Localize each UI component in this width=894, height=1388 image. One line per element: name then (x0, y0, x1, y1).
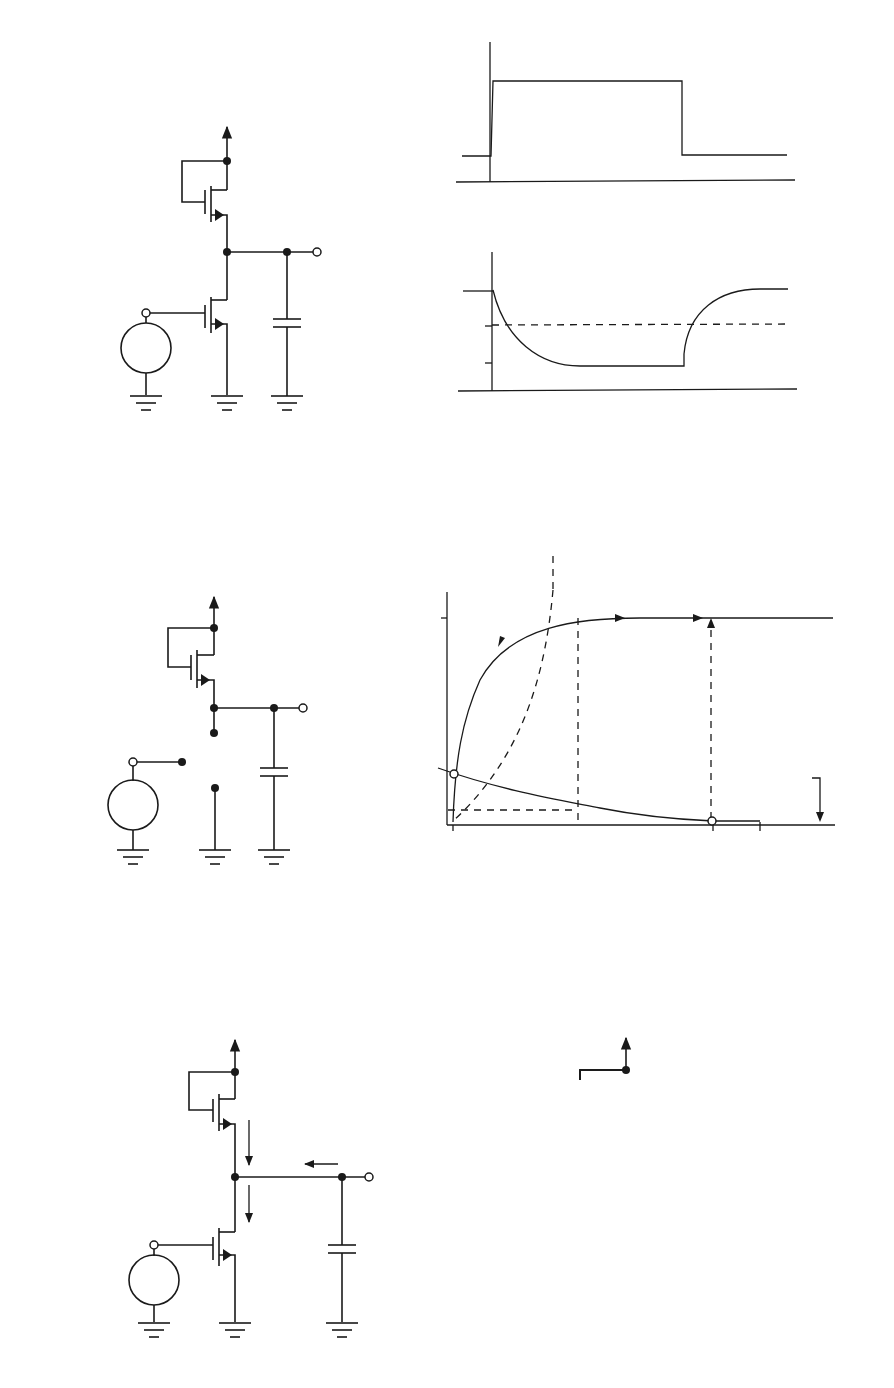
point-c-marker (450, 770, 458, 778)
panel-d-load-line-plot (438, 556, 835, 831)
ground-icon (326, 1323, 358, 1337)
vi-source-icon (129, 1255, 179, 1305)
vi-source-icon (108, 780, 158, 830)
figure-canvas (0, 0, 894, 1388)
m1-source-arrow-icon (223, 1249, 232, 1261)
ground-icon (138, 1323, 170, 1337)
direction-arrow-icon (707, 618, 715, 628)
m2-source-arrow-icon (223, 1118, 232, 1130)
panel-e-circuit (129, 1040, 373, 1337)
vi-source-icon (121, 323, 171, 373)
panel-a-circuit (121, 127, 321, 410)
panel-b-vo-waveform (458, 252, 797, 391)
point-a-marker (708, 817, 716, 825)
m1-source-arrow-icon (215, 318, 224, 330)
vo-terminal (365, 1173, 373, 1181)
direction-arrow-icon (615, 614, 625, 622)
panel-c-circuit (108, 597, 307, 864)
m2-source-arrow-icon (215, 209, 224, 221)
ground-icon (258, 850, 290, 864)
direction-arrow-icon (498, 636, 505, 647)
ground-icon (271, 396, 303, 410)
panel-f-circuit (580, 1038, 630, 1080)
vo-terminal (299, 704, 307, 712)
ground-icon (199, 850, 231, 864)
panel-b-vi-waveform (456, 42, 795, 182)
ground-icon (211, 396, 243, 410)
node3-terminal (142, 309, 150, 317)
direction-arrow-icon (816, 812, 824, 822)
m2-source-arrow-icon (201, 674, 210, 686)
direction-arrow-icon (693, 614, 703, 622)
ground-icon (117, 850, 149, 864)
vo-terminal (313, 248, 321, 256)
ground-icon (219, 1323, 251, 1337)
ground-icon (130, 396, 162, 410)
